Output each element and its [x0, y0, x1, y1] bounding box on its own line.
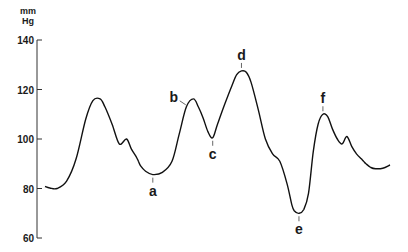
y-tick-label: 60	[23, 233, 35, 244]
annotation-label-b: b	[169, 89, 178, 105]
annotation-label-c: c	[209, 146, 217, 162]
annotation-label-f: f	[321, 90, 326, 106]
y-unit-line-2: Hg	[22, 16, 34, 26]
y-tick-label: 100	[17, 134, 34, 145]
pressure-curve	[45, 71, 390, 214]
y-ticks: 6080100120140	[17, 35, 42, 244]
annotation-leader-b	[180, 101, 186, 105]
pressure-chart: mm Hg 6080100120140 abcdef	[0, 0, 408, 252]
y-tick-label: 80	[23, 184, 35, 195]
y-unit-line-1: mm	[20, 6, 36, 16]
annotation-label-d: d	[237, 47, 246, 63]
y-tick-label: 140	[17, 35, 34, 46]
annotation-label-e: e	[295, 221, 303, 237]
annotations: abcdef	[149, 47, 326, 237]
y-tick-label: 120	[17, 85, 34, 96]
annotation-label-a: a	[149, 183, 157, 199]
